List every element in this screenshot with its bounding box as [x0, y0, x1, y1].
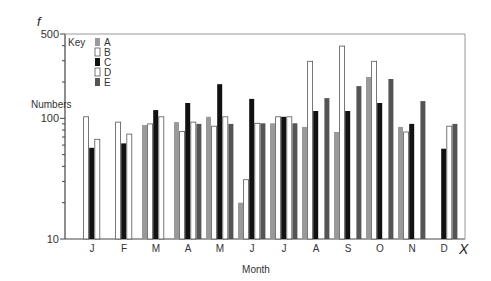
y-tick-label: 100 [41, 112, 59, 124]
legend-swatch-e [95, 78, 100, 86]
x-tick-label: M [152, 243, 160, 254]
x-tick-label: D [440, 243, 447, 254]
bar-e [228, 124, 233, 239]
bar-c [217, 84, 222, 239]
legend-swatch-b [95, 48, 100, 56]
bar-c [153, 110, 158, 239]
bar-chart: 10100500JFMAMJJASOND KeyABCDE f Numbers … [0, 0, 491, 281]
bar-c [89, 148, 94, 239]
y-axis-label: Numbers [31, 99, 72, 110]
x-axis-label: Month [242, 264, 270, 275]
bar-c [185, 103, 190, 239]
bar-c [409, 124, 414, 239]
bar-d [255, 123, 260, 239]
x-axis-symbol: X [458, 241, 469, 257]
bar-d [95, 139, 100, 239]
bar-a [270, 123, 275, 239]
bar-b [308, 61, 313, 239]
bar-b [180, 131, 185, 239]
x-tick-label: J [250, 243, 255, 254]
y-axis-symbol: f [37, 14, 42, 29]
bar-e [196, 124, 201, 239]
bar-d [287, 117, 292, 239]
bar-e [356, 86, 361, 239]
x-tick-label: J [90, 243, 95, 254]
bar-b [372, 61, 377, 239]
bar-b [276, 117, 281, 239]
bar-c [281, 117, 286, 239]
x-tick-label: M [216, 243, 224, 254]
y-tick-label: 10 [47, 233, 59, 245]
bar-a [142, 125, 147, 239]
bar-a [206, 117, 211, 239]
x-tick-label: S [345, 243, 352, 254]
legend-swatch-a [95, 38, 100, 46]
bar-c [345, 111, 350, 239]
legend-title: Key [68, 37, 85, 48]
bar-c [441, 149, 446, 239]
bar-d [223, 117, 228, 239]
bar-c [249, 99, 254, 239]
x-tick-label: F [121, 243, 127, 254]
bar-a [238, 203, 243, 239]
bar-a [334, 132, 339, 239]
bar-b [148, 124, 153, 239]
bar-e [292, 123, 297, 239]
bar-e [388, 79, 393, 239]
bar-b [84, 117, 89, 239]
bar-e [324, 98, 329, 239]
bar-a [174, 122, 179, 239]
chart-bars [84, 46, 458, 239]
bar-b [340, 46, 345, 239]
bar-c [377, 103, 382, 239]
bar-a [398, 127, 403, 239]
x-tick-label: O [376, 243, 384, 254]
bar-b [212, 126, 217, 239]
bar-e [420, 101, 425, 239]
bar-c [313, 111, 318, 239]
bar-b [116, 122, 121, 239]
legend-label-e: E [104, 77, 111, 88]
bar-c [121, 143, 126, 239]
bar-d [159, 117, 164, 239]
legend-swatch-d [95, 68, 100, 76]
x-tick-label: A [313, 243, 320, 254]
chart-legend: KeyABCDE [68, 37, 111, 88]
bar-b [404, 132, 409, 239]
bar-a [302, 127, 307, 239]
bar-b [244, 180, 249, 239]
x-tick-label: J [282, 243, 287, 254]
bar-e [452, 124, 457, 239]
bar-a [366, 77, 371, 239]
bar-e [260, 123, 265, 239]
x-tick-label: A [185, 243, 192, 254]
bar-d [447, 126, 452, 239]
x-tick-label: N [408, 243, 415, 254]
legend-swatch-c [95, 58, 100, 66]
bar-d [191, 122, 196, 239]
y-tick-label: 500 [41, 28, 59, 40]
bar-d [127, 134, 132, 239]
